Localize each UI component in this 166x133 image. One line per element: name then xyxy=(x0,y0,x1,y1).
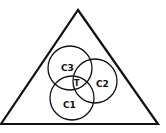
label-c3: C3 xyxy=(61,63,74,73)
outer-triangle xyxy=(1,10,158,124)
label-c2: C2 xyxy=(96,79,109,89)
venn-triangle-diagram: C3 C2 C1 T xyxy=(0,0,166,133)
circle-c1 xyxy=(50,76,94,120)
label-intersection-t: T xyxy=(74,79,80,88)
label-c1: C1 xyxy=(63,100,76,110)
circle-c2 xyxy=(73,59,117,103)
